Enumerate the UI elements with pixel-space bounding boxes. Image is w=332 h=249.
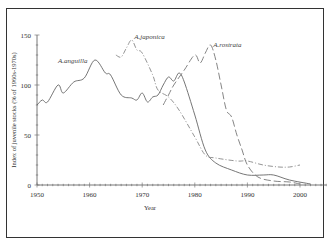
x-tick-label: 1960	[83, 191, 98, 199]
series-line-a-japonica	[116, 40, 300, 167]
series-label: A.anguilla	[57, 57, 88, 65]
y-tick-label: 0	[28, 182, 32, 190]
series-label: A.rostrata	[212, 41, 242, 49]
line-chart: 195019601970198019902000050100150 A.angu…	[0, 0, 332, 249]
y-tick-label: 50	[24, 132, 32, 140]
x-tick-label: 2000	[293, 191, 308, 199]
series-labels: A.anguillaA.japonicaA.rostrata	[57, 33, 242, 65]
x-tick-label: 1950	[30, 191, 45, 199]
x-axis-title: Year	[144, 204, 157, 211]
x-tick-label: 1980	[188, 191, 203, 199]
series-label: A.japonica	[133, 33, 165, 41]
y-tick-label: 100	[21, 82, 32, 90]
y-tick-label: 150	[21, 32, 32, 40]
x-tick-label: 1990	[240, 191, 255, 199]
series-line-a-anguilla	[37, 60, 311, 184]
y-axis-title: Index of juvenile stocks (% of 1960s-197…	[10, 52, 18, 168]
x-tick-label: 1970	[135, 191, 150, 199]
series-line-a-rostrata	[163, 45, 300, 184]
